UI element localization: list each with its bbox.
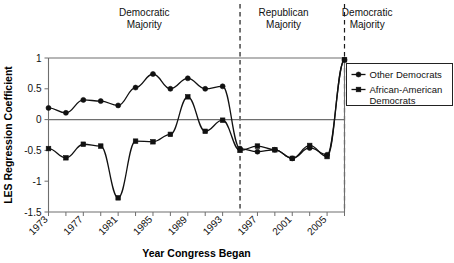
x-axis-title: Year Congress Began [142,247,251,259]
y-tick-label: -0.5 [24,145,42,156]
x-tick-label: 1989 [166,213,190,237]
data-point-marker [185,76,190,81]
data-point-marker [46,146,51,151]
majority-divider-lines [240,4,344,212]
chart-figure: DemocraticMajorityRepublicanMajorityDemo… [0,0,454,263]
data-point-marker [325,154,330,159]
data-point-marker [220,118,225,123]
data-point-marker [168,86,173,91]
chart-legend: Other DemocratsAfrican-AmericanDemocrats [347,64,453,106]
data-series [46,58,347,201]
data-point-marker [116,196,121,201]
y-tick-label: 0 [36,114,42,125]
legend-marker-square [356,87,361,92]
x-axis-tick-labels: 197319771981198519891993199720012005 [26,213,328,237]
majority-region-labels: DemocraticMajorityRepublicanMajorityDemo… [119,7,392,30]
data-point-marker [203,86,208,91]
region-label-line1: Democratic [119,7,170,18]
data-point-marker [116,103,121,108]
data-point-marker [342,58,347,63]
series-line [49,60,345,159]
data-point-marker [185,95,190,100]
data-point-marker [98,144,103,149]
region-label-line1: Republican [259,7,309,18]
data-point-marker [168,132,173,137]
legend-label-other-democrats: Other Democrats [370,69,443,80]
les-regression-coefficient-line-chart: DemocraticMajorityRepublicanMajorityDemo… [0,0,454,263]
region-label-line1: Democratic [342,7,393,18]
legend-label-african-american-democrats-line2: Democrats [370,95,416,106]
x-tick-label: 2005 [305,213,329,237]
y-tick-label: 0.5 [28,83,42,94]
x-tick-label: 1985 [131,213,155,237]
y-tick-label: 1 [36,53,42,64]
data-point-marker [307,143,312,148]
data-point-marker [220,84,225,89]
x-tick-label: 1981 [96,213,120,237]
data-point-marker [273,147,278,152]
data-point-marker [98,99,103,104]
data-point-marker [81,97,86,102]
region-label: DemocraticMajority [119,7,170,30]
data-point-marker [81,142,86,147]
region-label-line2: Majority [266,19,301,30]
data-series-layer [46,57,347,200]
data-point-marker [203,129,208,134]
data-point-marker [63,110,68,115]
legend-marker-circle [356,72,361,77]
data-point-marker [238,148,243,153]
data-point-marker [133,139,138,144]
y-axis-title: LES Regression Coefficient [2,66,14,204]
x-tick-label: 1977 [61,213,85,237]
x-tick-label: 2001 [270,213,294,237]
region-label: DemocraticMajority [342,7,393,30]
data-point-marker [64,155,69,160]
series-line [49,60,345,198]
y-tick-label: -1 [33,176,42,187]
data-point-marker [255,144,260,149]
data-point-marker [46,105,51,110]
data-point-marker [133,85,138,90]
region-label: RepublicanMajority [259,7,309,30]
y-axis-ticks: 10.50-0.5-1-1.5 [24,53,48,218]
plot-frame [49,58,345,212]
x-tick-label: 1997 [235,213,259,237]
data-point-marker [150,72,155,77]
data-point-marker [255,149,260,154]
data-point-marker [290,156,295,161]
x-tick-label: 1993 [201,213,225,237]
region-label-line2: Majority [127,19,162,30]
region-label-line2: Majority [350,19,385,30]
legend-label-african-american-democrats-line1: African-American [370,84,443,95]
x-axis-ticks [49,212,345,216]
data-point-marker [151,139,156,144]
